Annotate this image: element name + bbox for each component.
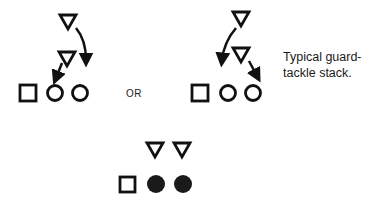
arrow-down-right: [249, 61, 257, 76]
center-square: [120, 177, 135, 192]
caption-line-1: Typical guard-: [283, 49, 373, 65]
left-formation: [20, 15, 88, 101]
or-label: OR: [126, 88, 142, 99]
right-formation: [192, 12, 261, 101]
lineman-circle-2: [73, 86, 88, 101]
caption: Typical guard- tackle stack.: [283, 49, 373, 81]
center-square: [20, 85, 36, 101]
defender-triangle-top: [60, 15, 76, 29]
arrow-curve-left: [222, 28, 236, 60]
defender-triangle-top: [233, 12, 249, 26]
defender-triangle-1: [147, 143, 163, 157]
arrow-curve-right: [76, 28, 86, 60]
filled-lineman-1: [147, 175, 165, 193]
stack-diagram: [0, 0, 373, 207]
caption-line-2: tackle stack.: [283, 65, 373, 81]
defender-triangle-lower: [233, 48, 249, 62]
lineman-circle-2: [246, 86, 261, 101]
center-square: [192, 85, 208, 101]
lineman-circle-1: [48, 86, 63, 101]
filled-lineman-2: [174, 175, 192, 193]
arrow-down-left: [56, 63, 62, 78]
defender-triangle-2: [174, 143, 190, 157]
bottom-formation: [120, 143, 192, 193]
lineman-circle-1: [221, 86, 236, 101]
